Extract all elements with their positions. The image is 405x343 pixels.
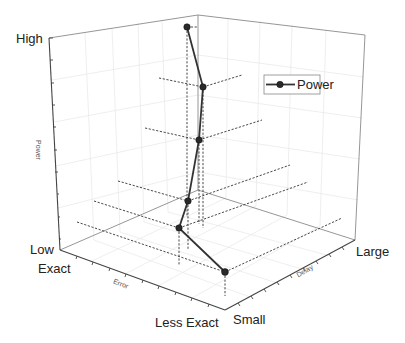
y-axis-title: Delay: [295, 263, 315, 279]
x-axis: [60, 250, 225, 310]
x-tick-less-exact: Less Exact: [155, 315, 219, 330]
x-axis-title: Error: [112, 278, 130, 291]
series-power-markers: [176, 24, 229, 276]
data-point: [200, 84, 206, 90]
data-point: [185, 198, 191, 204]
z-tick-low: Low: [30, 242, 54, 257]
data-point: [176, 225, 182, 231]
z-axis-title: Power: [35, 140, 42, 161]
series-power-line: [179, 27, 225, 272]
data-point: [184, 24, 190, 30]
projection-lines: [77, 27, 342, 296]
legend-label: Power: [297, 77, 335, 92]
data-point: [196, 137, 202, 143]
y-tick-large: Large: [356, 244, 389, 259]
z-tick-high: High: [16, 31, 43, 46]
legend: Power: [264, 75, 335, 94]
data-point: [222, 269, 229, 276]
legend-marker-icon: [277, 81, 283, 87]
3d-line-chart: High Low Exact Less Exact Small Large Po…: [0, 0, 405, 343]
axes-frame: [49, 15, 365, 250]
x-tick-exact: Exact: [38, 261, 71, 276]
z-axis: [49, 38, 60, 250]
y-tick-small: Small: [233, 312, 266, 327]
